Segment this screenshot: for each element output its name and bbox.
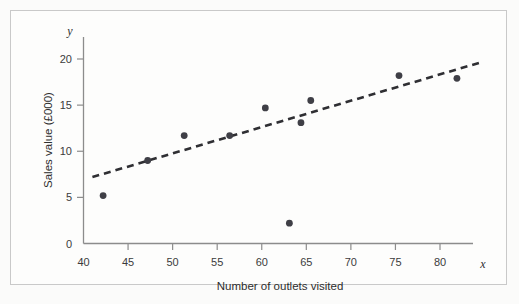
scatter-plot-canvas: 05101520 404550556065707580 Sales value … bbox=[0, 0, 519, 304]
x-axis-ticks: 404550556065707580 bbox=[77, 244, 446, 269]
scatter-plot-figure: 05101520 404550556065707580 Sales value … bbox=[0, 0, 519, 304]
data-point bbox=[454, 75, 461, 82]
x-tick-label: 75 bbox=[389, 256, 401, 268]
x-tick-label: 60 bbox=[256, 256, 268, 268]
data-point bbox=[181, 132, 188, 139]
data-point bbox=[226, 132, 233, 139]
y-tick-label: 10 bbox=[60, 145, 72, 157]
x-tick-label: 50 bbox=[167, 256, 179, 268]
data-point bbox=[144, 157, 151, 164]
y-tick-label: 5 bbox=[66, 191, 72, 203]
y-axis-ticks: 05101520 bbox=[60, 53, 84, 250]
data-point bbox=[100, 192, 107, 199]
x-tick-label: 80 bbox=[434, 256, 446, 268]
data-point bbox=[262, 104, 269, 111]
y-axis-title: Sales value (£000) bbox=[42, 92, 54, 188]
y-tick-label: 0 bbox=[66, 238, 72, 250]
y-tick-label: 20 bbox=[60, 53, 72, 65]
x-axis-letter: x bbox=[479, 257, 486, 271]
x-tick-label: 55 bbox=[211, 256, 223, 268]
x-tick-label: 65 bbox=[300, 256, 312, 268]
data-points-group bbox=[100, 72, 461, 226]
y-axis-letter: y bbox=[66, 24, 73, 38]
x-tick-label: 70 bbox=[345, 256, 357, 268]
x-axis-title: Number of outlets visited bbox=[217, 280, 344, 292]
x-tick-label: 45 bbox=[122, 256, 134, 268]
x-tick-label: 40 bbox=[77, 256, 89, 268]
data-point bbox=[286, 220, 293, 227]
y-tick-label: 15 bbox=[60, 99, 72, 111]
data-point bbox=[298, 119, 305, 126]
data-point bbox=[307, 97, 314, 104]
data-point bbox=[396, 72, 403, 79]
